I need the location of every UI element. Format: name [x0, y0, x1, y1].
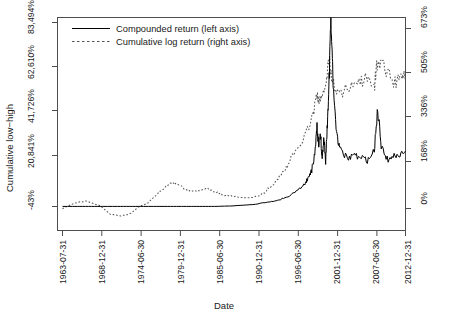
y-right-ticks: [406, 29, 412, 209]
series-compounded-return: [63, 18, 406, 207]
chart-canvas: [0, 0, 458, 323]
chart-figure: Cumulative low−high 83,494% 62,610% 41,7…: [0, 0, 458, 323]
series-cumulative-log-return: [63, 56, 406, 216]
plot-frame: [58, 18, 406, 231]
x-ticks: [63, 231, 406, 237]
y-left-ticks: [52, 23, 58, 207]
